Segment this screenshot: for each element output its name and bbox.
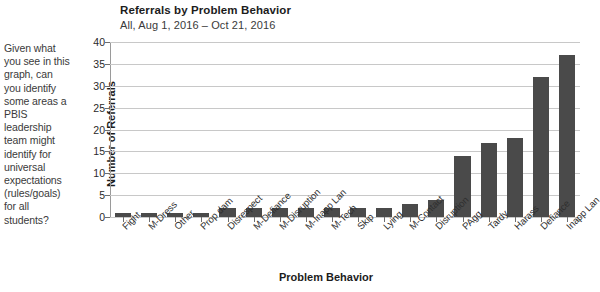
y-axis-tick-label: 35: [81, 58, 105, 70]
bar-slot[interactable]: [371, 42, 397, 217]
prompt-question-text: Given what you see in this graph, can yo…: [4, 42, 72, 227]
y-axis-tick-label: 15: [81, 145, 105, 157]
bar-slot[interactable]: [267, 42, 293, 217]
y-axis-tick-mark: [105, 151, 110, 152]
y-axis-tick-mark: [105, 195, 110, 196]
bar-slot[interactable]: [214, 42, 240, 217]
bar[interactable]: [481, 143, 497, 217]
y-axis-tick-mark: [105, 173, 110, 174]
y-axis-tick-mark: [105, 108, 110, 109]
bar[interactable]: [507, 138, 523, 217]
chart-subtitle: All, Aug 1, 2016 – Oct 21, 2016: [120, 19, 275, 31]
bar-slot[interactable]: [502, 42, 528, 217]
y-axis-tick-mark: [105, 64, 110, 65]
y-axis-tick-labels: 0510152025303540: [72, 0, 105, 292]
bar-slot[interactable]: [162, 42, 188, 217]
y-axis-tick-label: 40: [81, 36, 105, 48]
bar-slot[interactable]: [110, 42, 136, 217]
bar-slot[interactable]: [554, 42, 580, 217]
bar-slot[interactable]: [528, 42, 554, 217]
bar-chart-figure: Referrals by Problem Behavior All, Aug 1…: [72, 0, 600, 292]
y-axis-tick-label: 20: [81, 124, 105, 136]
y-axis-tick-mark: [105, 86, 110, 87]
bar-slot[interactable]: [188, 42, 214, 217]
bar-slot[interactable]: [345, 42, 371, 217]
y-axis-tick-label: 25: [81, 102, 105, 114]
y-axis-tick-label: 5: [81, 189, 105, 201]
bar-slot[interactable]: [241, 42, 267, 217]
bar-slot[interactable]: [449, 42, 475, 217]
bar-slot[interactable]: [136, 42, 162, 217]
y-axis-tick-label: 10: [81, 167, 105, 179]
y-axis-tick-label: 0: [81, 211, 105, 223]
y-axis-tick-mark: [105, 217, 110, 218]
bar-slot[interactable]: [476, 42, 502, 217]
chart-title: Referrals by Problem Behavior: [120, 4, 291, 16]
bar[interactable]: [533, 77, 549, 217]
y-axis-tick-mark: [105, 42, 110, 43]
bar-slot[interactable]: [397, 42, 423, 217]
x-axis-title: Problem Behavior: [72, 271, 580, 283]
y-axis-tick-mark: [105, 130, 110, 131]
y-axis-tick-label: 30: [81, 80, 105, 92]
bar[interactable]: [559, 55, 575, 217]
bar-slot[interactable]: [423, 42, 449, 217]
